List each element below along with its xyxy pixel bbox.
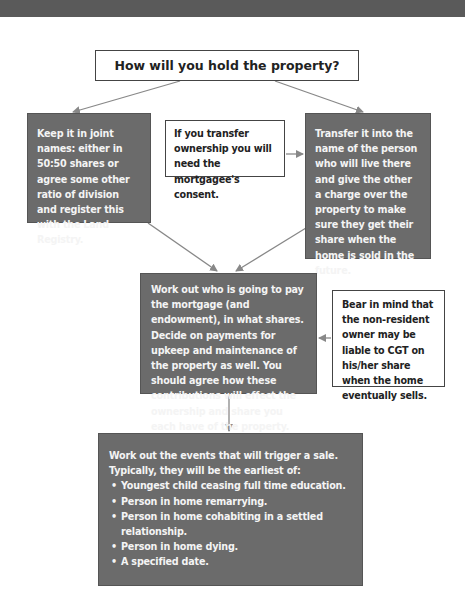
sale-triggers-box: Work out the events that will trigger a … <box>98 433 363 586</box>
payments-text: Work out who is going to pay the mortgag… <box>151 284 304 432</box>
joint-names-option-box: Keep it in joint names: either in 50:50 … <box>27 113 151 223</box>
transfer-option-box: Transfer it into the name of the person … <box>305 113 431 259</box>
list-item: Youngest child ceasing full time educati… <box>109 478 352 493</box>
arrow-left-to-center <box>148 223 217 271</box>
sale-triggers-list: Youngest child ceasing full time educati… <box>109 478 352 569</box>
arrow-right-to-center <box>236 228 306 271</box>
list-item: Person in home remarrying. <box>109 494 352 509</box>
payments-step-box: Work out who is going to pay the mortgag… <box>140 273 317 394</box>
transfer-text: Transfer it into the name of the person … <box>315 128 417 276</box>
sale-triggers-intro: Work out the events that will trigger a … <box>109 448 352 478</box>
question-title: How will you hold the property? <box>114 58 339 73</box>
cgt-text: Bear in mind that the non-resident owner… <box>342 299 433 401</box>
list-item: A specified date. <box>109 554 352 569</box>
question-box: How will you hold the property? <box>95 50 359 81</box>
mortgagee-consent-note: If you transfer ownership you will need … <box>165 120 285 177</box>
list-item: Person in home cohabiting in a settled r… <box>109 509 352 539</box>
arrow-title-to-left <box>73 81 180 112</box>
cgt-note: Bear in mind that the non-resident owner… <box>332 290 445 387</box>
arrow-title-to-right <box>275 81 363 112</box>
list-item: Person in home dying. <box>109 539 352 554</box>
